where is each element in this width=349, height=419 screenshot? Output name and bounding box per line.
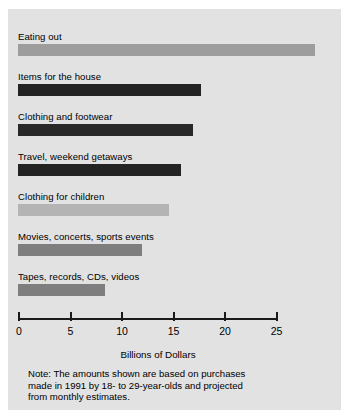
bar-label: Tapes, records, CDs, videos <box>18 271 139 282</box>
bar-label: Eating out <box>18 31 315 42</box>
bar-label: Items for the house <box>18 71 201 82</box>
x-axis-tick-label: 10 <box>116 325 128 337</box>
bar-eating-out <box>18 44 315 56</box>
bar-label: Travel, weekend getaways <box>18 151 181 162</box>
chart-note-line: from monthly estimates. <box>28 391 328 403</box>
x-axis-tick-label: 5 <box>68 325 74 337</box>
bar-group: Items for the house <box>18 71 201 96</box>
x-axis-tick-label: 25 <box>271 325 283 337</box>
bar-label: Movies, concerts, sports events <box>18 231 154 242</box>
x-axis-tick <box>70 312 72 321</box>
x-axis-tick <box>224 312 226 321</box>
bar-travel-weekend-getaways <box>18 164 181 176</box>
bar-movies-concerts-sports-events <box>18 244 142 256</box>
chart-note-line: Note: The amounts shown are based on pur… <box>28 368 328 380</box>
chart-note: Note: The amounts shown are based on pur… <box>28 368 328 403</box>
chart-plot-area: Eating out Items for the house Clothing … <box>8 9 341 410</box>
x-axis-tick-label: 20 <box>219 325 231 337</box>
chart-figure: Eating out Items for the house Clothing … <box>8 9 341 410</box>
x-axis-tick-label: 15 <box>168 325 180 337</box>
bar-tapes-records-cds-videos <box>18 284 105 296</box>
bar-group: Movies, concerts, sports events <box>18 231 154 256</box>
x-axis: 0 5 10 15 20 25 <box>18 312 278 324</box>
chart-note-line: made in 1991 by 18- to 29-year-olds and … <box>28 380 328 392</box>
bar-group: Tapes, records, CDs, videos <box>18 271 139 296</box>
bar-clothing-and-footwear <box>18 124 193 136</box>
bar-clothing-for-children <box>18 204 169 216</box>
bar-label: Clothing and footwear <box>18 111 193 122</box>
bar-group: Travel, weekend getaways <box>18 151 181 176</box>
bar-group: Clothing for children <box>18 191 169 216</box>
bar-group: Eating out <box>18 31 315 56</box>
x-axis-title: Billions of Dollars <box>8 349 308 360</box>
bar-items-for-the-house <box>18 84 201 96</box>
x-axis-tick <box>121 312 123 321</box>
x-axis-tick <box>276 312 278 321</box>
x-axis-tick <box>18 312 20 321</box>
bar-label: Clothing for children <box>18 191 169 202</box>
x-axis-tick-label: 0 <box>16 325 22 337</box>
x-axis-tick <box>173 312 175 321</box>
x-axis-line <box>18 318 278 320</box>
bar-group: Clothing and footwear <box>18 111 193 136</box>
